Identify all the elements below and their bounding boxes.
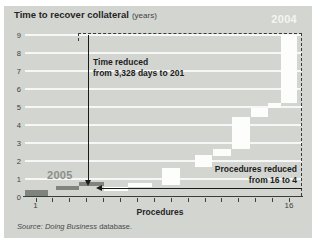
x-tick-15: [272, 198, 273, 202]
bar-2004-5: [213, 149, 231, 156]
x-tick-6: [120, 198, 121, 202]
annotation-time-line1: Time reduced: [93, 57, 184, 68]
y-axis-label-6: 6: [6, 85, 21, 94]
x-tick-5: [103, 198, 104, 202]
y-axis-label-8: 8: [6, 49, 21, 58]
gridline-y9: [25, 34, 302, 35]
bar-2004-6: [232, 117, 251, 149]
x-tick-label-16: 16: [281, 201, 297, 210]
bar-2004-3: [162, 168, 180, 185]
source-note-rest: database.: [97, 222, 132, 231]
bar-2004-8: [268, 103, 281, 108]
x-tick-14: [255, 198, 256, 202]
chart-title: Time to recover collateral(years): [14, 9, 157, 20]
y-axis-label-4: 4: [6, 121, 21, 130]
time-reduction-arrow-line: [88, 35, 89, 181]
chart-title-text: Time to recover collateral: [14, 9, 129, 20]
bar-2004-7: [251, 108, 268, 117]
y-axis-label-2: 2: [6, 157, 21, 166]
y-axis-label-0: 0: [6, 193, 21, 202]
left-arrowhead-icon: [96, 185, 102, 191]
bar-2004-9: [281, 35, 298, 103]
gridline-y3: [25, 142, 302, 143]
x-axis-title: Procedures: [60, 207, 260, 217]
y-axis-label-5: 5: [6, 103, 21, 112]
gridline-y6: [25, 88, 302, 89]
y-axis-label-9: 9: [6, 31, 21, 40]
x-tick-7: [137, 198, 138, 202]
annotation-time-line2: from 3,328 days to 201: [93, 68, 184, 79]
gridline-y8: [25, 52, 302, 53]
x-tick-3: [69, 198, 70, 202]
dashed-box-top-border: [78, 33, 302, 34]
chart-title-unit: (years): [132, 11, 157, 20]
y-axis-label-7: 7: [6, 67, 21, 76]
y-axis-label-3: 3: [6, 139, 21, 148]
dashed-box-left-corner: [78, 33, 79, 41]
gridline-y4: [25, 124, 302, 125]
x-tick-4: [86, 198, 87, 202]
y-axis-label-1: 1: [6, 175, 21, 184]
x-tick-10: [188, 198, 189, 202]
x-tick-11: [205, 198, 206, 202]
annotation-procedures-line1: Procedures reduced: [215, 164, 297, 175]
x-axis-line: [23, 196, 303, 198]
series-label-2004: 2004: [271, 13, 297, 25]
procedure-reduction-arrow-line: [101, 188, 302, 189]
bar-2005-2: [56, 186, 80, 191]
annotation-procedures-reduced: Procedures reduced from 16 to 4: [215, 164, 297, 186]
dashed-box-right-border: [301, 33, 302, 196]
x-tick-9: [171, 198, 172, 202]
series-label-2005: 2005: [47, 169, 73, 181]
bar-2004-2: [128, 183, 152, 187]
down-arrowhead-icon: [85, 180, 91, 186]
gridline-y2: [25, 160, 302, 161]
bar-2004-4: [195, 155, 212, 167]
x-tick-13: [238, 198, 239, 202]
source-note-italic: Source: Doing Business: [17, 222, 97, 231]
x-tick-8: [154, 198, 155, 202]
x-tick-2: [52, 198, 53, 202]
x-tick-12: [221, 198, 222, 202]
annotation-procedures-line2: from 16 to 4: [215, 175, 297, 186]
annotation-time-reduced: Time reduced from 3,328 days to 201: [93, 57, 184, 79]
source-note: Source: Doing Business database.: [17, 222, 132, 231]
x-tick-label-1: 1: [28, 201, 44, 210]
